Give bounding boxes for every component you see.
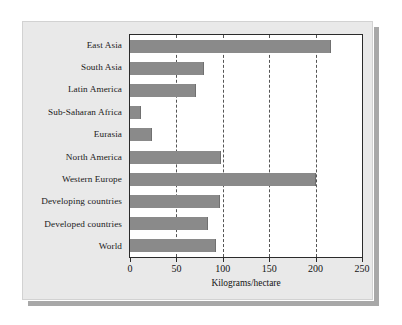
bar[interactable] bbox=[130, 239, 216, 252]
x-tick-label: 100 bbox=[215, 263, 230, 274]
category-label: Developing countries bbox=[23, 191, 126, 213]
bar-slot bbox=[130, 235, 362, 257]
plot-area bbox=[129, 34, 363, 258]
plot-inner bbox=[130, 35, 362, 257]
bar[interactable] bbox=[130, 106, 141, 119]
bar[interactable] bbox=[130, 62, 204, 75]
bar-slot bbox=[130, 102, 362, 124]
category-axis: East AsiaSouth AsiaLatin AmericaSub-Saha… bbox=[23, 34, 126, 258]
x-tick-label: 200 bbox=[308, 263, 323, 274]
bar[interactable] bbox=[130, 217, 208, 230]
category-label: Western Europe bbox=[23, 168, 126, 190]
panel-drop-shadow-bottom bbox=[28, 301, 379, 306]
x-tick-mark bbox=[362, 258, 363, 262]
x-axis-title: Kilograms/hectare bbox=[129, 278, 363, 288]
bar-slot bbox=[130, 35, 362, 57]
bar[interactable] bbox=[130, 40, 331, 53]
category-label: North America bbox=[23, 146, 126, 168]
bar-slot bbox=[130, 124, 362, 146]
bar[interactable] bbox=[130, 173, 316, 186]
bar-slot bbox=[130, 146, 362, 168]
bar-chart: East AsiaSouth AsiaLatin AmericaSub-Saha… bbox=[23, 22, 374, 301]
figure-panel: East AsiaSouth AsiaLatin AmericaSub-Saha… bbox=[22, 21, 373, 300]
category-label: Developed countries bbox=[23, 213, 126, 235]
category-label: East Asia bbox=[23, 34, 126, 56]
bar-slot bbox=[130, 57, 362, 79]
x-tick-mark bbox=[269, 258, 270, 262]
x-axis: 050100150200250 bbox=[129, 258, 363, 280]
x-tick-mark bbox=[130, 258, 131, 262]
category-label: World bbox=[23, 236, 126, 258]
x-tick-mark bbox=[223, 258, 224, 262]
bar-slot bbox=[130, 79, 362, 101]
panel-drop-shadow-right bbox=[374, 27, 379, 305]
bar[interactable] bbox=[130, 128, 152, 141]
x-tick-mark bbox=[316, 258, 317, 262]
bar[interactable] bbox=[130, 151, 221, 164]
bar[interactable] bbox=[130, 195, 220, 208]
category-label: Sub-Saharan Africa bbox=[23, 101, 126, 123]
x-tick-label: 0 bbox=[128, 263, 133, 274]
category-label: Latin America bbox=[23, 79, 126, 101]
category-label: Eurasia bbox=[23, 124, 126, 146]
x-tick-label: 50 bbox=[171, 263, 181, 274]
bar-slot bbox=[130, 168, 362, 190]
bar-slot bbox=[130, 190, 362, 212]
x-tick-mark bbox=[176, 258, 177, 262]
x-tick-label: 250 bbox=[355, 263, 370, 274]
x-tick-label: 150 bbox=[262, 263, 277, 274]
bars-group bbox=[130, 35, 362, 257]
bar-slot bbox=[130, 213, 362, 235]
category-label: South Asia bbox=[23, 56, 126, 78]
bar[interactable] bbox=[130, 84, 196, 97]
